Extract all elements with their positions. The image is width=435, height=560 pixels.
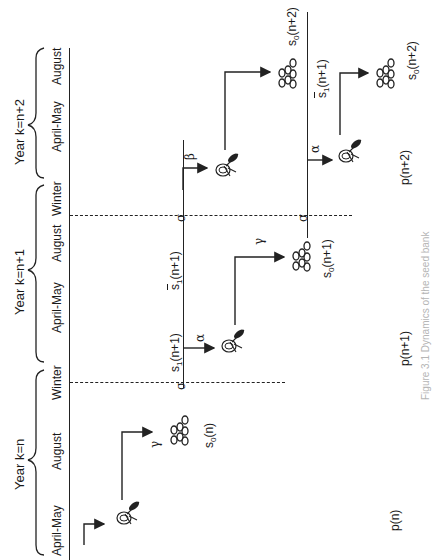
state-s0-n2-top: s0(n+2) — [285, 7, 301, 46]
plant-label-pn2: p(n+2) — [398, 150, 412, 185]
plant-icon — [335, 138, 365, 168]
transition-beta: β — [183, 153, 197, 160]
state-s1bar-n1-b: s1(n+1) — [315, 59, 331, 98]
plant-label-pn1: p(n+1) — [398, 331, 412, 366]
transition-sigma-1: σ — [174, 382, 188, 390]
plant-icon — [218, 328, 248, 358]
flow-arrows — [0, 0, 435, 560]
state-s1bar-n1: s1(n+1) — [168, 251, 184, 290]
state-s0-n2-bottom: s0(n+2) — [405, 41, 421, 80]
seed-cluster-icon — [170, 412, 192, 446]
transition-gamma-2: γ — [252, 238, 266, 245]
state-s0-n1: s0(n+1) — [320, 239, 336, 278]
transition-sigma-2: σ — [174, 214, 188, 222]
plant-label-pn: p(n) — [388, 510, 402, 531]
transition-alpha-1: α — [193, 334, 207, 342]
plant-icon — [113, 500, 143, 530]
state-s0-n: s0(n) — [202, 423, 218, 448]
transition-sigma-3: σ — [296, 214, 310, 222]
seed-cluster-icon — [376, 55, 398, 89]
transition-gamma-1: γ — [148, 441, 162, 448]
seed-cluster-icon — [278, 55, 300, 89]
seed-cluster-icon — [292, 238, 314, 272]
plant-icon — [212, 152, 242, 182]
figure-caption: Figure 3.1 Dynamics of the seed bank — [420, 232, 431, 400]
transition-alpha-2: α — [308, 145, 322, 153]
state-s1-n1: s1(n+1) — [168, 333, 184, 372]
